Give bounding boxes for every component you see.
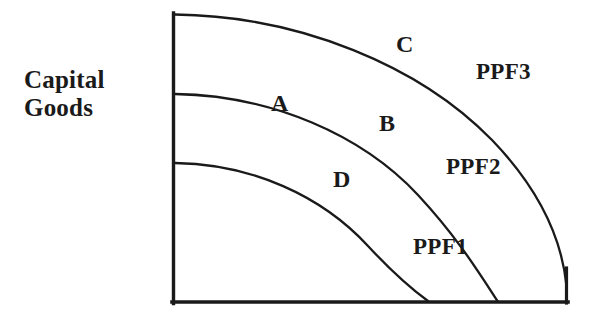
ppf3-curve [175, 15, 567, 287]
y-axis-label: Capital Goods [24, 66, 105, 122]
ppf-diagram-canvas: Capital Goods A B C D PPF1 PPF2 PPF3 [0, 0, 591, 321]
ppf-chart-svg [0, 0, 591, 321]
curve-label-ppf3: PPF3 [476, 59, 531, 85]
point-label-a: A [271, 90, 288, 117]
curve-label-ppf2: PPF2 [446, 154, 501, 180]
point-label-b: B [379, 110, 395, 137]
curve-label-ppf1: PPF1 [413, 234, 468, 260]
ppf2-curve [175, 94, 498, 301]
ppf1-curve [175, 163, 428, 301]
point-label-d: D [333, 166, 350, 193]
point-label-c: C [396, 31, 413, 58]
